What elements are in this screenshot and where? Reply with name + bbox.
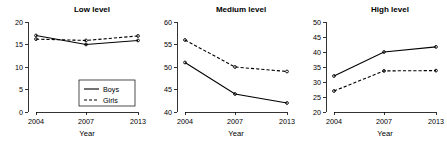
x-tick-label: 2013 [130, 117, 146, 126]
chart-figure: Low level05101520200420072013YearBoysGir… [0, 0, 447, 150]
y-tick-label: 45 [164, 85, 172, 94]
x-axis-title: Year [79, 129, 95, 138]
x-axis-title: Year [377, 129, 393, 138]
legend-label-girls: Girls [103, 96, 118, 105]
panel-title: Medium level [216, 5, 266, 14]
x-tick-label: 2004 [326, 117, 342, 126]
x-tick-label: 2013 [428, 117, 444, 126]
series-line-girls [334, 71, 436, 91]
x-tick-label: 2007 [376, 117, 392, 126]
y-tick-label: 30 [313, 78, 321, 87]
x-tick-label: 2004 [177, 117, 193, 126]
y-tick-label: 55 [164, 40, 172, 49]
y-tick-label: 10 [15, 63, 23, 72]
data-point-girls [85, 39, 88, 42]
panel-plot-area-3: High level20253035404550200420072013Year [298, 0, 447, 150]
panel-plot-area-1: Low level05101520200420072013YearBoysGir… [0, 0, 149, 150]
data-point-girls [137, 35, 140, 38]
y-tick-label: 20 [15, 18, 23, 27]
chart-panel-low-level: Low level05101520200420072013YearBoysGir… [0, 0, 149, 150]
panel-plot-area-2: Medium level4045505560200420072013Year [149, 0, 298, 150]
y-tick-label: 0 [19, 108, 23, 117]
series-line-boys [185, 63, 287, 104]
data-point-girls [286, 70, 289, 73]
x-tick-label: 2007 [227, 117, 243, 126]
y-tick-label: 5 [19, 85, 23, 94]
x-tick-label: 2013 [279, 117, 295, 126]
y-tick-label: 15 [15, 40, 23, 49]
chart-panel-medium-level: Medium level4045505560200420072013Year [149, 0, 298, 150]
y-tick-label: 25 [313, 93, 321, 102]
data-point-girls [234, 66, 237, 69]
y-tick-label: 45 [313, 33, 321, 42]
y-tick-label: 50 [164, 63, 172, 72]
chart-panel-high-level: High level20253035404550200420072013Year [298, 0, 447, 150]
panel-title: Low level [74, 5, 110, 14]
x-tick-label: 2004 [28, 117, 44, 126]
data-point-boys [137, 39, 140, 42]
y-tick-label: 35 [313, 63, 321, 72]
legend-label-boys: Boys [103, 85, 119, 94]
x-axis-title: Year [228, 129, 244, 138]
y-tick-label: 40 [313, 48, 321, 57]
y-tick-label: 50 [313, 18, 321, 27]
panel-title: High level [371, 5, 409, 14]
y-tick-label: 20 [313, 108, 321, 117]
y-tick-label: 60 [164, 18, 172, 27]
y-tick-label: 40 [164, 108, 172, 117]
x-tick-label: 2007 [78, 117, 94, 126]
